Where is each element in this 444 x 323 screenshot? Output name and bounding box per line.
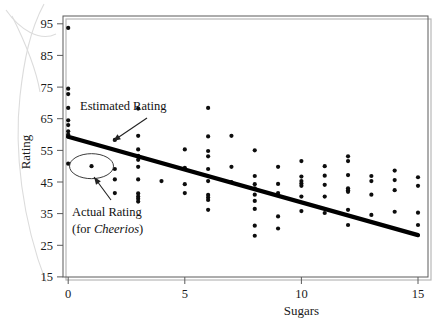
data-point <box>276 165 280 169</box>
y-axis-title: Rating <box>18 134 33 169</box>
data-point <box>136 177 140 181</box>
data-point <box>206 106 210 110</box>
data-point <box>393 169 397 173</box>
data-point <box>253 174 257 178</box>
data-point <box>229 165 233 169</box>
x-tick-label: 10 <box>295 287 308 301</box>
actual-rating-suffix: ) <box>139 222 143 236</box>
data-point <box>206 149 210 153</box>
data-point <box>346 154 350 158</box>
estimated-rating-regression-line <box>68 137 418 235</box>
x-tick-label: 0 <box>65 287 71 301</box>
y-axis-ticks <box>57 24 63 277</box>
data-point <box>206 179 210 183</box>
data-point <box>66 92 70 96</box>
data-point <box>393 178 397 182</box>
y-axis-tick-labels: 95 85 75 65 55 45 35 25 15 <box>41 17 54 284</box>
y-tick-label: 25 <box>41 239 54 253</box>
data-point <box>253 199 257 203</box>
data-point <box>206 154 210 158</box>
y-tick-label: 65 <box>41 112 54 126</box>
data-point <box>369 213 373 217</box>
y-tick-label: 45 <box>41 176 54 190</box>
actual-rating-label-line1: Actual Rating <box>72 205 143 219</box>
data-point <box>369 193 373 197</box>
cheerios-brand-name: Cheerios <box>94 222 139 236</box>
data-point <box>206 134 210 138</box>
data-point <box>323 194 327 198</box>
data-point <box>183 147 187 151</box>
data-point <box>276 182 280 186</box>
annotation-actual-rating: Actual Rating (for Cheerios) <box>70 154 144 236</box>
data-point <box>113 191 117 195</box>
data-point <box>183 191 187 195</box>
data-point <box>66 123 70 127</box>
scatterplot-figure: 95 85 75 65 55 45 35 25 15 0 5 10 15 Sug… <box>0 0 444 323</box>
data-point <box>253 148 257 152</box>
data-point <box>393 188 397 192</box>
data-point <box>136 200 140 204</box>
data-point <box>416 223 420 227</box>
y-tick-label: 35 <box>41 207 54 221</box>
data-point <box>66 106 70 110</box>
data-point <box>66 87 70 91</box>
x-tick-label: 15 <box>412 287 425 301</box>
data-point <box>299 209 303 213</box>
data-point <box>183 182 187 186</box>
data-point <box>229 134 233 138</box>
x-axis-tick-labels: 0 5 10 15 <box>65 287 424 301</box>
data-point <box>136 134 140 138</box>
data-point <box>276 214 280 218</box>
data-point <box>346 208 350 212</box>
data-point <box>253 207 257 211</box>
data-point <box>253 234 257 238</box>
data-point <box>66 26 70 30</box>
data-point <box>369 174 373 178</box>
data-point <box>299 194 303 198</box>
x-axis-title: Sugars <box>284 303 319 318</box>
data-point <box>299 159 303 163</box>
data-point <box>369 179 373 183</box>
data-point <box>89 164 93 168</box>
estimated-rating-arrowhead <box>113 134 121 141</box>
annotation-estimated-rating: Estimated Rating <box>80 99 167 141</box>
data-point <box>323 174 327 178</box>
y-tick-label: 95 <box>41 17 54 31</box>
data-point <box>206 198 210 202</box>
data-point <box>253 182 257 186</box>
data-point <box>66 118 70 122</box>
plot-frame <box>63 16 431 280</box>
data-point <box>323 211 327 215</box>
data-point <box>136 165 140 169</box>
data-point <box>299 175 303 179</box>
actual-rating-prefix: (for <box>72 222 94 236</box>
data-point <box>346 190 350 194</box>
estimated-rating-label: Estimated Rating <box>80 99 167 113</box>
chart-canvas: 95 85 75 65 55 45 35 25 15 0 5 10 15 Sug… <box>0 0 444 323</box>
data-point <box>416 175 420 179</box>
y-tick-label: 75 <box>41 81 54 95</box>
data-point <box>416 184 420 188</box>
data-point <box>276 226 280 230</box>
data-point <box>206 208 210 212</box>
y-tick-label: 55 <box>41 144 54 158</box>
y-tick-label: 15 <box>41 270 54 284</box>
data-point <box>346 159 350 163</box>
actual-rating-label-line2: (for Cheerios) <box>72 222 143 236</box>
data-point <box>206 167 210 171</box>
data-point <box>323 183 327 187</box>
data-point <box>253 193 257 197</box>
y-tick-label: 85 <box>41 49 54 63</box>
data-point <box>299 184 303 188</box>
x-tick-label: 5 <box>182 287 188 301</box>
data-point <box>323 164 327 168</box>
data-point <box>253 224 257 228</box>
data-point <box>346 173 350 177</box>
data-point <box>393 210 397 214</box>
data-point <box>113 177 117 181</box>
data-point <box>136 147 140 151</box>
data-point <box>416 211 420 215</box>
data-point <box>346 223 350 227</box>
data-point <box>159 179 163 183</box>
